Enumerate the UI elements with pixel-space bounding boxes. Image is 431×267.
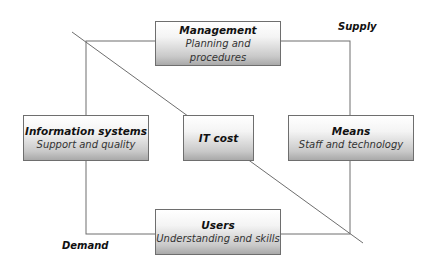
it-cost-title: IT cost xyxy=(199,131,238,145)
management-title: Management xyxy=(179,23,256,37)
management-subtitle: Planning and procedures xyxy=(156,37,280,65)
management-box: Management Planning and procedures xyxy=(155,21,281,66)
users-subtitle: Understanding and skills xyxy=(156,232,279,246)
supply-label: Supply xyxy=(338,21,377,32)
users-box: Users Understanding and skills xyxy=(155,209,281,255)
means-box: Means Staff and technology xyxy=(288,115,414,161)
it-cost-box: IT cost xyxy=(183,115,254,161)
information-systems-title: Information systems xyxy=(25,124,147,138)
information-systems-box: Information systems Support and quality xyxy=(23,115,149,161)
means-title: Means xyxy=(332,124,370,138)
users-title: Users xyxy=(201,218,234,232)
means-subtitle: Staff and technology xyxy=(299,138,403,152)
information-systems-subtitle: Support and quality xyxy=(37,138,136,152)
demand-label: Demand xyxy=(62,240,109,251)
